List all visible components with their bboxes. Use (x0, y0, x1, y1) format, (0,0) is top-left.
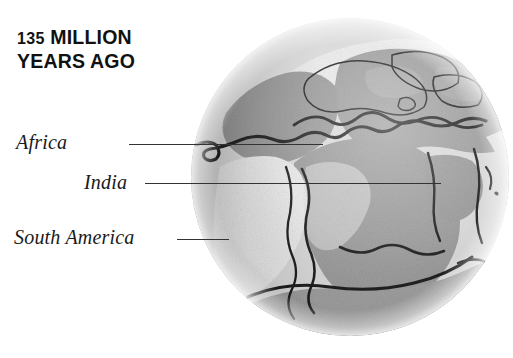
leader-line-south-america (177, 239, 229, 240)
figure-title-line2: YEARS AGO (17, 50, 197, 73)
figure-title: 135 MILLION YEARS AGO (17, 26, 197, 73)
label-india: India (84, 171, 127, 194)
leader-line-africa (129, 144, 323, 145)
figure-title-number: 135 (17, 30, 45, 47)
label-africa: Africa (16, 131, 67, 154)
label-south-america: South America (14, 226, 135, 249)
globe-limb-glow (191, 18, 509, 336)
figure-title-line1: 135 MILLION (17, 26, 197, 50)
globe-disc (190, 17, 511, 338)
globe-svg (190, 17, 511, 338)
figure-title-line1-rest: MILLION (45, 26, 132, 48)
globe (190, 17, 511, 338)
leader-line-india (145, 183, 441, 184)
globe-illustration: 135 MILLION YEARS AGO Africa India South… (0, 0, 513, 358)
